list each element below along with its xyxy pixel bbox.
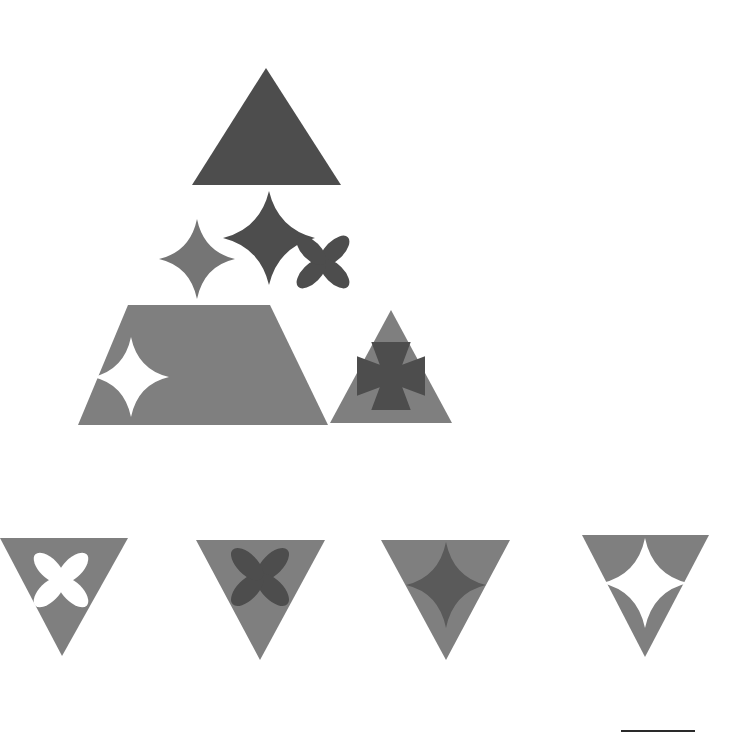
shape-scene: [0, 0, 736, 734]
bottom-edge-line: [621, 730, 695, 732]
image-canvas: [0, 0, 736, 734]
